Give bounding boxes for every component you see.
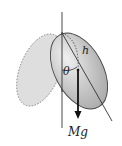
angle-label-theta: θ xyxy=(63,66,70,77)
force-label-mg: Mg xyxy=(68,126,88,138)
gravity-arrow-head xyxy=(75,111,82,119)
center-of-mass-dot xyxy=(77,69,80,72)
length-label-h: h xyxy=(82,45,89,56)
diagram-canvas xyxy=(0,0,122,146)
